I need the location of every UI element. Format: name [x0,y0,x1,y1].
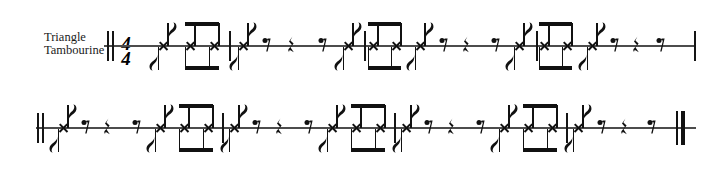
system-1: Triangle Tambourine 4 4 [0,0,721,95]
beam-down [368,66,401,70]
stem-up [532,105,534,128]
beam-down [539,66,572,70]
flag-down [578,54,587,69]
quarter-rest [447,118,456,137]
flag-up [583,104,592,119]
flag-down [146,136,155,151]
flag-up [425,22,434,37]
beam-down [523,148,557,152]
barline [694,31,696,61]
flag-up [168,22,177,37]
final-barline [676,111,686,145]
stem-up [384,105,386,128]
flag-down [334,54,343,69]
flag-down [229,54,238,69]
flag-down [49,136,58,151]
barline [107,31,109,61]
eighth-rest [252,118,261,133]
eighth-rest [656,36,665,51]
stem-up [212,105,214,128]
stem-up [360,105,362,128]
flag-up [353,22,362,37]
beam-up [368,22,401,26]
flag-up [239,104,248,119]
flag-up [411,104,420,119]
beam-up [185,22,219,26]
barline [112,31,114,61]
flag-down [505,54,514,69]
stem-up [548,23,550,46]
eighth-rest [439,36,448,51]
flag-down [564,136,573,151]
flag-down [406,54,415,69]
music-score: Triangle Tambourine 4 4 Timp. Tacet [0,0,721,191]
beam-down [351,148,385,152]
eighth-rest [424,118,433,133]
flag-up [597,22,606,37]
quarter-rest [620,118,629,137]
stem-up [194,23,196,46]
beam-up [179,104,213,108]
quarter-rest [462,36,471,55]
part-label-tambourine: Tambourine [44,44,104,58]
beam-up [351,104,385,108]
eighth-rest [610,36,619,51]
barline [536,31,538,61]
flag-up [248,22,257,37]
flag-down [392,136,401,151]
flag-up [337,104,346,119]
beam-down [179,148,213,152]
stem-up [377,23,379,46]
time-signature: 4 4 [118,36,134,66]
system-2: Timp. Tacet [0,95,721,191]
eighth-rest [476,118,485,133]
eighth-rest [304,118,313,133]
barline [364,31,366,61]
barline [42,113,44,143]
beam-up [523,104,557,108]
eighth-rest [647,118,656,133]
quarter-rest [275,118,284,137]
flag-up [68,104,77,119]
time-signature-denominator: 4 [118,51,134,66]
flag-down [318,136,327,151]
flag-down [490,136,499,151]
eighth-rest [262,36,271,51]
quarter-rest [287,36,296,55]
stem-up [188,105,190,128]
stem-up [218,23,220,46]
barline [37,113,39,143]
quarter-rest [103,118,112,137]
flag-down [149,54,158,69]
stem-up [400,23,402,46]
flag-up [165,104,174,119]
eighth-rest [132,118,141,133]
flag-down [220,136,229,151]
quarter-rest [632,36,641,55]
eighth-rest [597,118,606,133]
stem-up [571,23,573,46]
flag-up [509,104,518,119]
eighth-rest [318,36,327,51]
flag-up [524,22,533,37]
stem-up [556,105,558,128]
beam-down [185,66,219,70]
beam-up [539,22,572,26]
eighth-rest [491,36,500,51]
eighth-rest [81,118,90,133]
